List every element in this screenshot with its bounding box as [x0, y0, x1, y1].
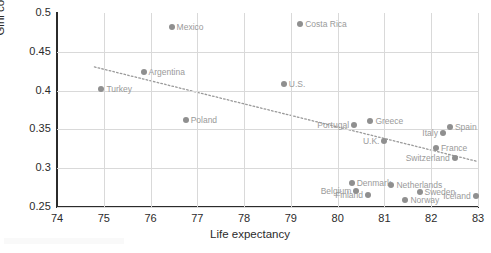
gridline-horizontal: [57, 52, 478, 53]
data-point-label: Mexico: [177, 23, 204, 32]
data-point[interactable]: [388, 182, 394, 188]
data-point[interactable]: [183, 117, 189, 123]
data-point-label: Finland: [335, 191, 363, 200]
page-artifact: [4, 238, 124, 244]
y-axis-tick-label: 0.3: [5, 161, 51, 173]
y-axis-tick-label: 0.35: [5, 122, 51, 134]
data-point-label: Denmark: [357, 179, 391, 188]
data-point[interactable]: [365, 192, 371, 198]
data-point[interactable]: [452, 155, 458, 161]
y-axis-tick-label: 0.4: [5, 84, 51, 96]
data-point-label: Costa Rica: [305, 20, 347, 29]
x-axis-tick-label: 78: [224, 212, 264, 224]
data-point[interactable]: [417, 189, 423, 195]
data-point[interactable]: [440, 130, 446, 136]
x-axis-tick-label: 76: [131, 212, 171, 224]
data-point-label: Poland: [191, 116, 217, 125]
scatter-chart-figure: Gini coefficient Life expectancy TurkeyA…: [0, 0, 491, 253]
x-axis-tick-label: 83: [458, 212, 491, 224]
gridline-horizontal: [57, 129, 478, 130]
data-point-label: Argentina: [149, 68, 185, 77]
data-point[interactable]: [141, 69, 147, 75]
y-axis-tick-label: 0.5: [5, 6, 51, 18]
data-point[interactable]: [297, 21, 303, 27]
x-axis-tick-label: 79: [271, 212, 311, 224]
data-point-label: Turkey: [106, 85, 132, 94]
data-point[interactable]: [281, 81, 287, 87]
x-axis-title: Life expectancy: [160, 228, 340, 240]
gridline-vertical: [244, 13, 245, 207]
data-point-label: Greece: [375, 117, 403, 126]
trendline: [57, 13, 478, 207]
data-point-label: Italy: [422, 129, 438, 138]
data-point[interactable]: [169, 24, 175, 30]
data-point[interactable]: [367, 118, 373, 124]
gridline-vertical: [291, 13, 292, 207]
data-point[interactable]: [381, 138, 387, 144]
gridline-horizontal: [57, 168, 478, 169]
x-axis-tick-label: 77: [177, 212, 217, 224]
gridline-vertical: [197, 13, 198, 207]
data-point[interactable]: [473, 193, 479, 199]
data-point-label: Spain: [455, 123, 477, 132]
data-point-label: U.S.: [289, 80, 306, 89]
gridline-vertical: [431, 13, 432, 207]
data-point-label: U.K.: [363, 137, 380, 146]
plot-area: TurkeyArgentinaMexicoPolandU.S.Costa Ric…: [57, 13, 478, 207]
x-axis-tick-label: 81: [364, 212, 404, 224]
x-axis-tick-label: 75: [84, 212, 124, 224]
x-axis-tick-label: 82: [411, 212, 451, 224]
data-point-label: Iceland: [443, 192, 470, 201]
x-axis-tick-label: 74: [37, 212, 77, 224]
data-point-label: Norway: [410, 196, 439, 205]
data-point[interactable]: [349, 180, 355, 186]
data-point-label: Portugal: [317, 121, 349, 130]
gridline-vertical: [338, 13, 339, 207]
y-axis-tick-label: 0.25: [5, 200, 51, 212]
data-point[interactable]: [433, 145, 439, 151]
y-axis-tick-label: 0.45: [5, 45, 51, 57]
data-point[interactable]: [351, 122, 357, 128]
data-point[interactable]: [402, 197, 408, 203]
gridline-vertical: [104, 13, 105, 207]
gridline-vertical: [478, 13, 479, 207]
data-point-label: Switzerland: [406, 154, 450, 163]
x-axis-tick-label: 80: [318, 212, 358, 224]
gridline-vertical: [151, 13, 152, 207]
gridline-horizontal: [57, 207, 478, 208]
